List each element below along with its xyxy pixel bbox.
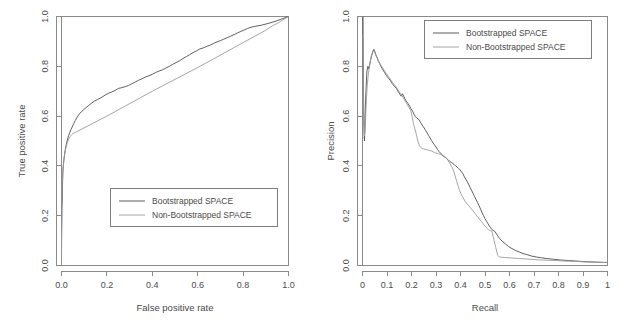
roc-xtick-5: 1.0 xyxy=(282,280,295,290)
pr-ytick-2: 0.4 xyxy=(341,160,351,173)
pr-xtick-8: 0.8 xyxy=(552,280,565,290)
pr-yaxis-title: Precision xyxy=(325,121,336,160)
pr-xtick-3: 0.3 xyxy=(430,280,443,290)
pr-xaxis-title: Recall xyxy=(472,302,498,313)
pr-xtick-10: 1 xyxy=(605,280,610,290)
roc-ytick-4: 0.8 xyxy=(40,60,50,73)
roc-ytick-3: 0.6 xyxy=(40,110,50,123)
pr-xtick-7: 0.7 xyxy=(528,280,541,290)
roc-yaxis-title: True positive rate xyxy=(16,104,27,177)
pr-x-axis: 00.10.20.30.40.50.60.70.80.91 xyxy=(360,271,610,290)
pr-xtick-9: 0.9 xyxy=(577,280,590,290)
roc-xaxis-title: False positive rate xyxy=(136,302,213,313)
pr-ytick-1: 0.2 xyxy=(341,209,351,222)
roc-plot-svg: 0.0 0.2 0.4 0.6 0.8 1.0 0.0 0.2 0.4 0.6 xyxy=(0,0,318,325)
pr-ytick-5: 1.0 xyxy=(341,10,351,23)
series-line-non-bootstrapped-space xyxy=(62,17,289,266)
roc-ytick-2: 0.4 xyxy=(40,160,50,173)
pr-xtick-2: 0.2 xyxy=(405,280,418,290)
roc-xtick-1: 0.2 xyxy=(101,280,114,290)
roc-legend-label-0: Bootstrapped SPACE xyxy=(152,196,233,206)
roc-series-group xyxy=(62,17,289,266)
pr-ytick-3: 0.6 xyxy=(341,110,351,123)
roc-legend: Bootstrapped SPACE Non-Bootstrapped SPAC… xyxy=(111,189,278,227)
series-line-bootstrapped-space xyxy=(62,17,289,266)
pr-xtick-1: 0.1 xyxy=(381,280,394,290)
figure-container: 0.0 0.2 0.4 0.6 0.8 1.0 0.0 0.2 0.4 0.6 xyxy=(0,0,636,325)
pr-legend-label-0: Bootstrapped SPACE xyxy=(466,28,547,38)
pr-legend: Bootstrapped SPACE Non-Bootstrapped SPAC… xyxy=(425,21,592,59)
series-line-non-bootstrapped-space xyxy=(363,34,608,263)
pr-ytick-0: 0.0 xyxy=(341,259,351,272)
roc-plot-panel: 0.0 0.2 0.4 0.6 0.8 1.0 0.0 0.2 0.4 0.6 xyxy=(0,0,318,325)
roc-ytick-5: 1.0 xyxy=(40,10,50,23)
pr-legend-label-1: Non-Bootstrapped SPACE xyxy=(466,42,566,52)
roc-xtick-3: 0.6 xyxy=(191,280,204,290)
roc-plot-frame xyxy=(62,17,289,266)
pr-xtick-4: 0.4 xyxy=(454,280,467,290)
roc-ytick-1: 0.2 xyxy=(40,209,50,222)
precision-recall-plot-panel: 0.0 0.2 0.4 0.6 0.8 1.0 00.10.20.30.40.5… xyxy=(318,0,636,325)
pr-ytick-4: 0.8 xyxy=(341,60,351,73)
roc-xtick-2: 0.4 xyxy=(146,280,159,290)
pr-xtick-0: 0 xyxy=(360,280,365,290)
pr-y-axis: 0.0 0.2 0.4 0.6 0.8 1.0 xyxy=(341,10,362,272)
roc-ytick-0: 0.0 xyxy=(40,259,50,272)
pr-xtick-5: 0.5 xyxy=(479,280,492,290)
precision-recall-plot-svg: 0.0 0.2 0.4 0.6 0.8 1.0 00.10.20.30.40.5… xyxy=(318,0,636,325)
roc-legend-label-1: Non-Bootstrapped SPACE xyxy=(152,210,252,220)
roc-y-axis: 0.0 0.2 0.4 0.6 0.8 1.0 xyxy=(40,10,61,272)
roc-x-axis: 0.0 0.2 0.4 0.6 0.8 1.0 xyxy=(55,271,295,290)
roc-xtick-0: 0.0 xyxy=(55,280,68,290)
roc-xtick-4: 0.8 xyxy=(237,280,250,290)
pr-xtick-6: 0.6 xyxy=(503,280,516,290)
